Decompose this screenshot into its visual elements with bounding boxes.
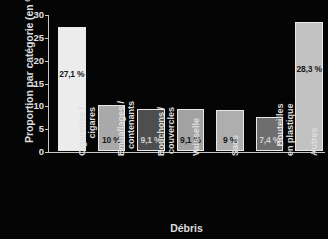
y-tick-mark — [45, 38, 48, 39]
y-tick-label: 0 — [24, 147, 44, 157]
bar-value-label: 28,3 % — [295, 64, 323, 74]
y-tick-label: 15 — [24, 79, 44, 89]
y-tick-label: 5 — [24, 124, 44, 134]
y-tick-mark — [45, 61, 48, 62]
bar-slot: 9 % — [216, 14, 244, 151]
x-category-label-line: contenants — [126, 101, 136, 156]
bar-chart: Proportion par catégorie (en %) 05101520… — [0, 0, 328, 239]
y-tick-mark — [45, 15, 48, 16]
y-tick-label: 25 — [24, 33, 44, 43]
x-category-label: Vaisselle — [191, 118, 201, 156]
x-axis-title: Débris — [48, 222, 325, 234]
y-tick-label: 10 — [24, 101, 44, 111]
y-tick-label: 20 — [24, 56, 44, 66]
x-category-label: Bouteillesen plastique — [275, 103, 295, 156]
bar-value-label: 27,1 % — [58, 69, 86, 79]
x-category-label: Bouchons /couvercles — [156, 107, 176, 156]
y-tick-mark — [45, 152, 48, 153]
x-category-label-line: Sacs — [230, 135, 240, 156]
x-category-label-line: Emballages / — [116, 101, 126, 156]
x-category-label-line: cigares — [87, 107, 97, 156]
x-category-label-line: Bouchons / — [156, 107, 166, 156]
y-tick-mark — [45, 129, 48, 130]
x-category-label-line: Cigarettes / — [77, 107, 87, 156]
y-tick-label: 30 — [24, 10, 44, 20]
x-category-label-line: Bouteilles — [275, 103, 285, 156]
x-category-label-line: Vaisselle — [191, 118, 201, 156]
x-category-label: Sacs — [230, 135, 240, 156]
x-category-label-line: Autres — [309, 127, 319, 156]
x-category-label: Emballages /contenants — [116, 101, 136, 156]
x-category-label: Cigarettes /cigares — [77, 107, 97, 156]
x-category-label-line: en plastique — [285, 103, 295, 156]
y-axis-line — [48, 15, 49, 153]
y-tick-mark — [45, 106, 48, 107]
x-category-label: Autres — [309, 127, 319, 156]
y-tick-mark — [45, 84, 48, 85]
x-category-label-line: couvercles — [166, 107, 176, 156]
